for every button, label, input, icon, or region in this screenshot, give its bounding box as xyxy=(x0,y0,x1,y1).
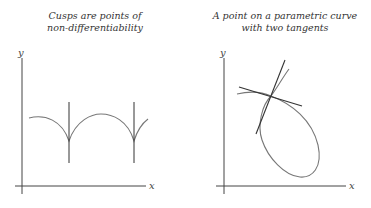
parametric-diagram: y x xyxy=(216,47,355,194)
cusp-curve xyxy=(29,114,148,141)
y-axis-label: y xyxy=(219,47,226,58)
x-axis-label: x xyxy=(149,180,155,191)
y-axis-label: y xyxy=(17,47,24,58)
diagram-canvas: y x y x xyxy=(0,0,371,208)
parametric-loop-curve xyxy=(237,69,319,177)
cusp-diagram: y x xyxy=(15,47,155,194)
tangent-line-2 xyxy=(256,60,285,134)
x-axis-label: x xyxy=(349,180,355,191)
